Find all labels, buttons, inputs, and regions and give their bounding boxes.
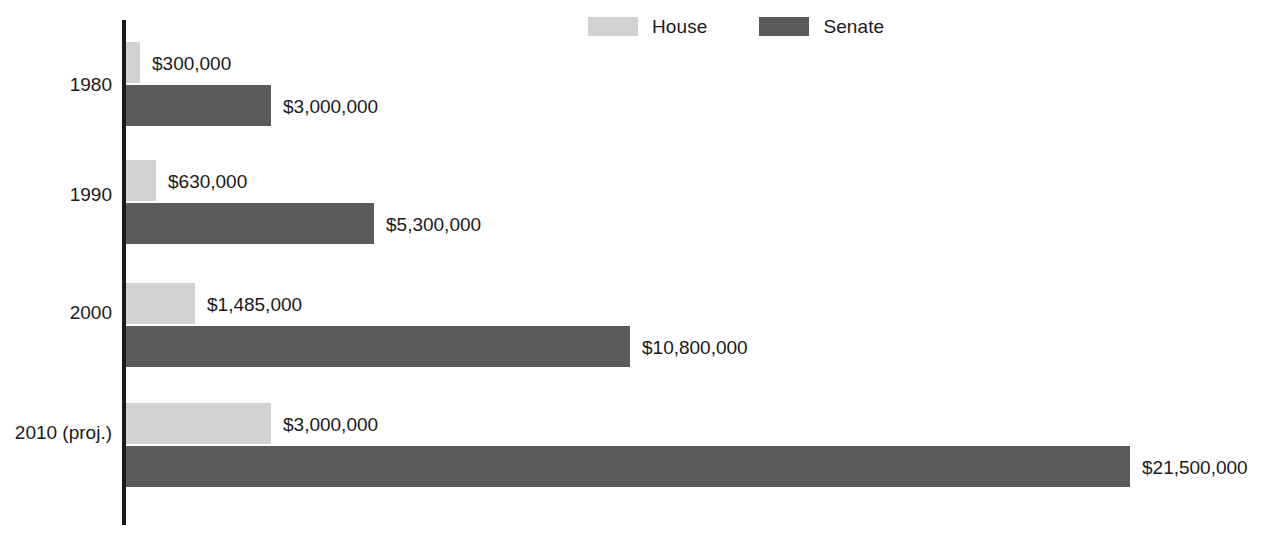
bar-value-senate-1990: $5,300,000 [386, 215, 481, 234]
bar-value-senate-1980: $3,000,000 [283, 97, 378, 116]
bar-house-2000[interactable] [126, 283, 195, 324]
bar-value-house-1990: $630,000 [168, 172, 247, 191]
bar-senate-1990[interactable] [126, 203, 374, 244]
category-label-1980: 1980 [0, 75, 112, 94]
bar-senate-2010[interactable] [126, 446, 1130, 487]
bar-value-house-2010: $3,000,000 [283, 415, 378, 434]
bar-value-senate-2010: $21,500,000 [1142, 458, 1248, 477]
bar-value-senate-2000: $10,800,000 [642, 338, 748, 357]
bar-house-2010[interactable] [126, 403, 271, 444]
category-label-2010: 2010 (proj.) [0, 423, 112, 442]
bar-senate-2000[interactable] [126, 326, 630, 367]
bar-value-house-2000: $1,485,000 [207, 295, 302, 314]
bar-senate-1980[interactable] [126, 85, 271, 126]
category-label-1990: 1990 [0, 185, 112, 204]
bar-value-house-1980: $300,000 [152, 54, 231, 73]
category-label-2000: 2000 [0, 303, 112, 322]
bar-house-1980[interactable] [126, 42, 140, 83]
bar-chart: House Senate 1980 $300,000 $3,000,000 19… [0, 0, 1273, 543]
plot-area: 1980 $300,000 $3,000,000 1990 $630,000 $… [0, 0, 1273, 543]
bar-house-1990[interactable] [126, 160, 156, 201]
